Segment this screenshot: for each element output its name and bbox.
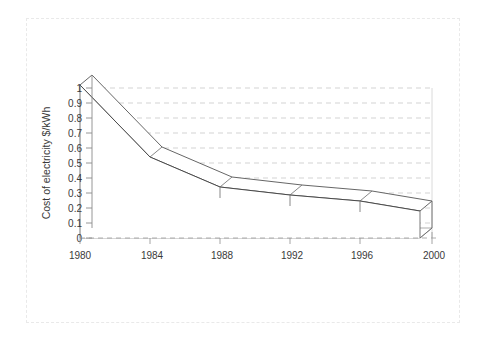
x-tick-label-1980: 1980 bbox=[69, 250, 92, 261]
series-ribbon-front-face bbox=[80, 85, 420, 238]
y-tick-label-0.5: 0.5 bbox=[68, 158, 82, 169]
y-tick-label-0.6: 0.6 bbox=[68, 143, 82, 154]
y-tick-label-0.8: 0.8 bbox=[68, 113, 82, 124]
y-tick-label-0: 0 bbox=[76, 233, 82, 244]
y-tick-label-0.1: 0.1 bbox=[68, 218, 82, 229]
y-tick-label-0.4: 0.4 bbox=[68, 173, 82, 184]
y-tick-label-0.7: 0.7 bbox=[68, 128, 82, 139]
y-tick-label-0.3: 0.3 bbox=[68, 188, 82, 199]
area-chart-svg: 1 0.9 0.8 0.7 0.6 0.5 0.4 0.3 0.2 0.1 0 … bbox=[0, 0, 481, 341]
x-tick-label-1992: 1992 bbox=[281, 250, 304, 261]
x-tick-label-1984: 1984 bbox=[141, 250, 164, 261]
x-tick-label-2000: 2000 bbox=[423, 250, 446, 261]
x-tick-label-1996: 1996 bbox=[351, 250, 374, 261]
y-axis-title: Cost of electricity $/kWh bbox=[40, 107, 52, 220]
y-tick-label-1.0: 1 bbox=[76, 83, 82, 94]
y-tick-labels: 1 0.9 0.8 0.7 0.6 0.5 0.4 0.3 0.2 0.1 0 bbox=[68, 83, 82, 244]
x-tick-label-1988: 1988 bbox=[211, 250, 234, 261]
x-tick-labels: 1980 1984 1988 1992 1996 2000 bbox=[69, 250, 446, 261]
y-tick-label-0.2: 0.2 bbox=[68, 203, 82, 214]
chart-figure: 1 0.9 0.8 0.7 0.6 0.5 0.4 0.3 0.2 0.1 0 … bbox=[0, 0, 481, 341]
y-tick-label-0.9: 0.9 bbox=[68, 98, 82, 109]
